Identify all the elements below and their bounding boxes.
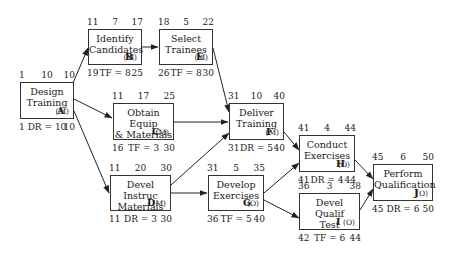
late-finish-label: 25 [132, 68, 143, 78]
duration-label: 7 [112, 17, 118, 27]
activity-node-c: Obtain Equip & MaterialsC(M) [113, 103, 174, 140]
float-label: TF = 6 [314, 233, 345, 243]
activity-node-i: Devel Qualif TestI(O) [299, 193, 360, 230]
activity-node-a: Design TrainingA(M) [20, 82, 74, 119]
early-start-label: 11 [87, 17, 98, 27]
early-finish-label: 50 [423, 152, 434, 162]
late-start-label: 26 [158, 68, 169, 78]
activity-type: (O) [247, 199, 259, 208]
activity-node-j: Perform QualificationJ(O) [373, 164, 433, 201]
activity-type: (M) [265, 128, 279, 137]
float-label: TF = 8 [170, 68, 201, 78]
late-finish-label: 44 [350, 233, 361, 243]
early-start-label: 41 [298, 123, 309, 133]
early-finish-label: 38 [350, 181, 361, 191]
early-start-label: 31 [228, 91, 239, 101]
duration-label: 17 [138, 91, 149, 101]
float-label: TF = 8 [99, 68, 130, 78]
edge-g-h [264, 163, 299, 193]
early-finish-label: 35 [254, 163, 265, 173]
edge-f-h [284, 132, 299, 150]
activity-name: Deliver Training [230, 107, 283, 129]
duration-label: 10 [41, 70, 52, 80]
duration-label: 5 [183, 17, 189, 27]
activity-node-d: Devel Instruc MaterialsD(M) [110, 175, 171, 211]
edge-e-f [213, 48, 229, 112]
early-start-label: 31 [207, 163, 218, 173]
activity-node-g: Develop ExercisesG(O) [208, 175, 264, 211]
early-start-label: 36 [298, 181, 309, 191]
late-start-label: 36 [207, 214, 218, 224]
duration-label: 3 [327, 181, 333, 191]
activity-name: Conduct Exercises [300, 139, 354, 161]
early-finish-label: 17 [132, 17, 143, 27]
late-start-label: 42 [298, 233, 309, 243]
duration-label: 10 [251, 91, 262, 101]
early-start-label: 11 [112, 91, 123, 101]
early-finish-label: 44 [345, 123, 356, 133]
late-start-label: 1 [19, 122, 25, 132]
duration-label: 6 [400, 152, 406, 162]
activity-node-e: Select TraineesE(M) [159, 29, 213, 65]
float-label: DR = 6 [387, 204, 420, 214]
early-start-label: 18 [158, 17, 169, 27]
edge-a-c [74, 99, 112, 118]
float-label: DR = 3 [124, 214, 157, 224]
edge-a-b [73, 48, 88, 83]
edge-a-d [74, 111, 109, 193]
edge-h-j [355, 160, 373, 179]
late-finish-label: 10 [64, 122, 75, 132]
activity-type: (O) [343, 218, 355, 227]
activity-name: Design Training [21, 86, 73, 108]
activity-type: (M) [194, 53, 208, 62]
activity-type: (M) [155, 128, 169, 137]
early-start-label: 11 [109, 163, 120, 173]
activity-node-b: Identify CandidatesB(M) [88, 29, 142, 65]
duration-label: 20 [135, 163, 146, 173]
activity-name: Develop Exercises [209, 179, 263, 201]
duration-label: 4 [324, 123, 330, 133]
early-finish-label: 30 [161, 163, 172, 173]
late-start-label: 19 [87, 68, 98, 78]
late-start-label: 11 [109, 214, 120, 224]
late-finish-label: 30 [164, 143, 175, 153]
late-start-label: 45 [372, 204, 383, 214]
activity-name: Select Trainees [160, 33, 212, 55]
float-label: DR = 10 [28, 122, 67, 132]
late-finish-label: 30 [203, 68, 214, 78]
activity-type: (M) [123, 53, 137, 62]
edge-g-i [264, 200, 299, 218]
float-label: TF = 5 [220, 214, 251, 224]
activity-name: Identify Candidates [89, 33, 141, 55]
early-finish-label: 10 [64, 70, 75, 80]
duration-label: 5 [233, 163, 239, 173]
early-finish-label: 22 [203, 17, 214, 27]
late-finish-label: 30 [161, 214, 172, 224]
late-start-label: 31 [228, 143, 239, 153]
activity-code: I [336, 216, 340, 227]
float-label: DR = 5 [240, 143, 273, 153]
late-start-label: 16 [112, 143, 123, 153]
float-label: TF = 3 [128, 143, 159, 153]
activity-node-h: Conduct ExercisesH(O) [299, 135, 355, 172]
network-diagram: Design TrainingA(M)110101DR = 1010Identi… [0, 0, 452, 260]
early-finish-label: 40 [274, 91, 285, 101]
activity-type: (M) [152, 199, 166, 208]
early-finish-label: 25 [164, 91, 175, 101]
late-finish-label: 40 [254, 214, 265, 224]
late-finish-label: 50 [423, 204, 434, 214]
activity-name: Perform Qualification [374, 168, 432, 190]
early-start-label: 1 [19, 70, 25, 80]
activity-type: (M) [55, 107, 69, 116]
activity-type: (O) [416, 189, 428, 198]
early-start-label: 45 [372, 152, 383, 162]
late-finish-label: 40 [274, 143, 285, 153]
activity-node-f: Deliver TrainingF(M) [229, 103, 284, 140]
activity-type: (O) [338, 160, 350, 169]
